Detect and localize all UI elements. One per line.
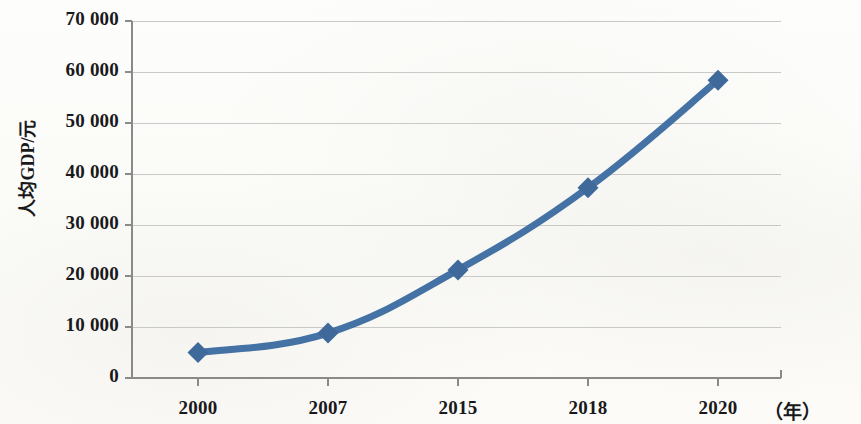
y-axis-tick-label: 20 000 xyxy=(66,263,119,285)
data-point-marker xyxy=(318,323,339,344)
x-axis-tick-label: 2018 xyxy=(528,397,648,419)
x-axis-tick-label: 2000 xyxy=(138,397,258,419)
data-series-line xyxy=(198,80,718,352)
y-axis-tick-label: 40 000 xyxy=(66,161,119,183)
y-axis-tick-label: 70 000 xyxy=(66,8,119,30)
x-axis-unit-label: （年） xyxy=(764,397,821,424)
y-axis-tick-label: 60 000 xyxy=(66,59,119,81)
data-point-marker xyxy=(188,342,209,363)
y-axis-tick-label: 10 000 xyxy=(66,314,119,336)
y-axis-title: 人均GDP/元 xyxy=(13,88,39,248)
y-axis-tick-label: 50 000 xyxy=(66,110,119,132)
x-axis-tick-label: 2020 xyxy=(658,397,778,419)
y-axis-tick-label: 30 000 xyxy=(66,212,119,234)
chart-container: 010 00020 00030 00040 00050 00060 00070 … xyxy=(0,0,861,424)
line-chart-plot xyxy=(0,0,861,424)
x-axis-tick-label: 2007 xyxy=(268,397,388,419)
y-axis-tick-label: 0 xyxy=(109,365,119,387)
x-axis-tick-label: 2015 xyxy=(398,397,518,419)
